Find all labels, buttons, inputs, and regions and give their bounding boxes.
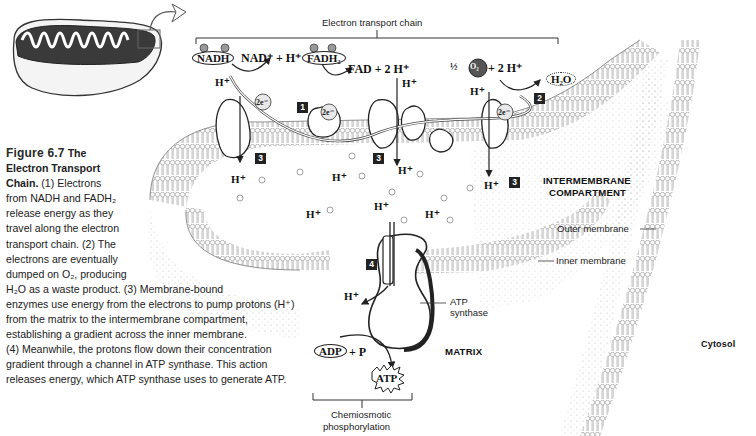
h-plus-label: H⁺ [425,208,440,221]
step-4-badge: 4 [366,259,377,270]
fad-label: FAD + 2 H⁺ [348,62,409,77]
cytosol-label: Cytosol [701,339,735,349]
caption-line: releases energy, which ATP synthase uses… [6,372,426,387]
plus-p-label: + P [349,345,366,360]
intermembrane-label-line1: INTERMEMBRANE [543,175,631,186]
intermembrane-label-line2: COMPARTMENT [549,187,626,198]
atp-synthase-label-line2: synthase [450,307,488,318]
adp-label: ADP [314,344,347,358]
inner-membrane-label: Inner membrane [556,255,626,266]
caption-line: travel along the electron [6,221,206,236]
half-label: ½ [450,61,458,72]
caption-line: from the matrix to the intermembrane com… [6,312,426,327]
h-plus-label: H⁺ [306,208,321,221]
nad-plus-label: NAD⁺ + H⁺ [241,51,301,66]
electrons-label: 2e⁻ [256,98,268,107]
caption-line: transport chain. (2) The [6,237,206,252]
step-1-badge: 1 [297,102,308,113]
caption-line: enzymes use energy from the electrons to… [6,297,426,312]
chemiosmotic-label-line2: phosphorylation [323,421,390,432]
step-2-badge: 2 [534,93,545,104]
caption-line: H₂O as a waste product. (3) Membrane-bou… [6,282,426,297]
h-plus-label: H⁺ [231,173,246,186]
etc-label: Electron transport chain [322,17,422,28]
etc-bracket [196,30,558,44]
caption-line: establishing a gradient across the inner… [6,327,426,342]
fadh2-label: FADH₂ [302,51,346,65]
plus-2h-label: + 2 H⁺ [488,61,522,76]
step-3-badge: 3 [373,153,384,164]
h-plus-label: H⁺ [332,171,347,184]
caption-line: dumped on O₂, producing [6,267,206,282]
h-plus-label: H⁺ [484,179,499,192]
h-plus-label: H⁺ [402,77,417,90]
h-plus-label: H⁺ [374,200,389,213]
chemiosmotic-label-line1: Chemiosmotic [331,409,391,420]
outer-membrane-label: Outer membrane [557,223,629,234]
matrix-label: MATRIX [445,346,482,357]
figure-title-part1: The [68,147,87,159]
step-3-badge: 3 [509,177,520,188]
mitochondrion-thumbnail [13,4,186,96]
nadh-label: NADH [192,51,234,65]
caption-line: from NADH and FADH₂ [6,191,206,206]
figure-label: Figure 6.7 [6,146,65,160]
electrons-label: 2e⁻ [498,108,510,117]
caption-line: (1) Electrons [41,177,101,189]
atp-synthase-label-line1: ATP [450,296,468,307]
caption-line: electrons are eventually [6,252,206,267]
caption-line: release energy as they [6,206,206,221]
step-3-badge: 3 [255,153,266,164]
atp-label: ATP [376,372,397,384]
h-plus-label: H⁺ [215,76,230,89]
o2-label: O₂ [470,62,479,71]
figure-title-part2: Electron Transport [6,161,206,176]
figure-title-part3: Chain. [6,177,38,189]
figure-caption: Figure 6.7 The Electron Transport Chain.… [6,146,206,388]
h-plus-label: H⁺ [398,164,413,177]
h-plus-label: H⁺ [470,85,485,98]
electrons-label: 2e⁻ [322,108,334,117]
h-plus-label: H⁺ [344,290,359,303]
